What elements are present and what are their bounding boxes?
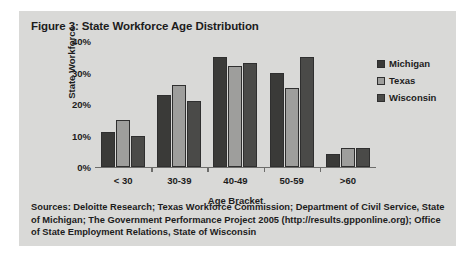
y-tick-label: 0%: [77, 162, 91, 173]
bar-texas: [228, 66, 242, 167]
bar-group: [264, 41, 320, 167]
legend-item-texas: Texas: [377, 75, 457, 86]
y-axis-tick-labels: 0%10%20%30%40%: [51, 41, 91, 167]
x-tick-label: 50-59: [280, 175, 304, 186]
x-tick-label: 40-49: [223, 175, 247, 186]
legend-item-wisconsin: Wisconsin: [377, 92, 457, 103]
bar-group: [320, 41, 376, 167]
legend-swatch-icon: [377, 77, 385, 85]
bar-michigan: [270, 73, 284, 168]
y-tick-label: 30%: [72, 67, 91, 78]
x-axis-tick: [264, 167, 265, 172]
bar-wisconsin: [131, 136, 145, 168]
bar-texas: [116, 120, 130, 167]
legend-label: Wisconsin: [389, 92, 436, 103]
bar-group: [207, 41, 263, 167]
x-axis-tick: [151, 167, 152, 172]
y-tick-label: 10%: [72, 130, 91, 141]
x-tick-label: >60: [340, 175, 356, 186]
y-tick-label: 20%: [72, 99, 91, 110]
legend-item-michigan: Michigan: [377, 58, 457, 69]
bar-michigan: [157, 95, 171, 167]
bar-wisconsin: [243, 63, 257, 167]
bar-wisconsin: [300, 57, 314, 167]
bars-plot-area: [95, 41, 376, 168]
bar-michigan: [101, 132, 115, 167]
x-tick-label: 30-39: [167, 175, 191, 186]
bar-michigan: [213, 57, 227, 167]
sources-note: Sources: Deloitte Research; Texas Workfo…: [31, 201, 447, 239]
chart-legend: MichiganTexasWisconsin: [377, 58, 457, 109]
figure-panel: Figure 3: State Workforce Age Distributi…: [19, 11, 456, 246]
legend-swatch-icon: [377, 60, 385, 68]
bar-group: [95, 41, 151, 167]
bar-texas: [341, 148, 355, 167]
bar-group: [151, 41, 207, 167]
legend-label: Texas: [389, 75, 415, 86]
bar-michigan: [326, 154, 340, 167]
bar-wisconsin: [187, 101, 201, 167]
x-tick-label: < 30: [114, 175, 133, 186]
bar-texas: [285, 88, 299, 167]
bar-wisconsin: [356, 148, 370, 167]
x-axis-tick: [207, 167, 208, 172]
bar-texas: [172, 85, 186, 167]
x-axis-tick: [320, 167, 321, 172]
legend-label: Michigan: [389, 58, 430, 69]
legend-swatch-icon: [377, 94, 385, 102]
y-tick-label: 40%: [72, 36, 91, 47]
